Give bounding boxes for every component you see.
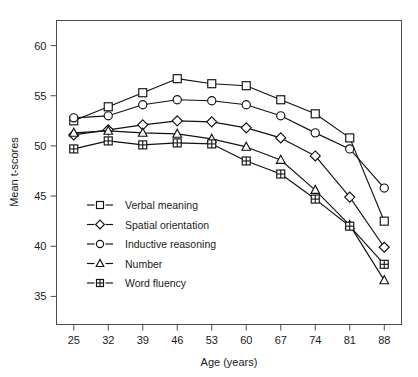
data-point-marker — [346, 145, 354, 153]
data-point-marker — [380, 260, 388, 268]
data-point-marker — [139, 101, 147, 109]
legend-label: Inductive reasoning — [125, 238, 216, 250]
y-tick-label-35: 35 — [34, 290, 46, 302]
data-point-marker — [208, 97, 216, 105]
data-point-marker — [173, 75, 181, 83]
y-tick-label-60: 60 — [34, 40, 46, 52]
data-point-marker — [380, 184, 388, 192]
line-chart: 354045505560 25323946536067748188 Mean t… — [0, 0, 418, 377]
data-point-marker — [277, 96, 285, 104]
data-point-marker — [242, 157, 250, 165]
data-point-marker — [277, 170, 285, 178]
data-point-marker — [173, 96, 181, 104]
data-point-marker — [96, 201, 103, 208]
y-tick-label-50: 50 — [34, 140, 46, 152]
x-tick-label-32: 32 — [102, 334, 114, 346]
data-point-marker — [96, 279, 103, 286]
data-point-marker — [70, 114, 78, 122]
legend-label: Number — [125, 258, 163, 270]
x-tick-label-81: 81 — [344, 334, 356, 346]
x-axis-title: Age (years) — [201, 356, 258, 368]
data-point-marker — [311, 195, 319, 203]
data-point-marker — [173, 139, 181, 147]
data-point-marker — [242, 82, 250, 90]
x-tick-label-88: 88 — [378, 334, 390, 346]
y-tick-label-55: 55 — [34, 90, 46, 102]
legend-label: Spatial orientation — [125, 219, 209, 231]
data-point-marker — [104, 137, 112, 145]
data-point-marker — [311, 110, 319, 118]
x-tick-label-74: 74 — [309, 334, 321, 346]
data-point-marker — [277, 112, 285, 120]
data-point-marker — [104, 112, 112, 120]
x-tick-label-46: 46 — [171, 334, 183, 346]
data-point-marker — [380, 217, 388, 225]
data-point-marker — [139, 141, 147, 149]
legend-label: Word fluency — [125, 277, 187, 289]
x-tick-label-67: 67 — [275, 334, 287, 346]
data-point-marker — [346, 222, 354, 230]
data-point-marker — [311, 129, 319, 137]
data-point-marker — [242, 101, 250, 109]
y-tick-label-45: 45 — [34, 190, 46, 202]
data-point-marker — [208, 140, 216, 148]
chart-figure: 354045505560 25323946536067748188 Mean t… — [0, 0, 418, 377]
data-point-marker — [208, 80, 216, 88]
x-tick-label-60: 60 — [240, 334, 252, 346]
x-tick-label-53: 53 — [206, 334, 218, 346]
data-point-marker — [104, 103, 112, 111]
data-point-marker — [96, 240, 103, 247]
figure-background — [0, 0, 418, 377]
legend-label: Verbal meaning — [125, 199, 198, 211]
x-tick-label-39: 39 — [137, 334, 149, 346]
data-point-marker — [346, 134, 354, 142]
y-axis-title: Mean t-scores — [8, 137, 20, 207]
x-tick-label-25: 25 — [68, 334, 80, 346]
y-tick-label-40: 40 — [34, 240, 46, 252]
data-point-marker — [139, 89, 147, 97]
data-point-marker — [70, 145, 78, 153]
